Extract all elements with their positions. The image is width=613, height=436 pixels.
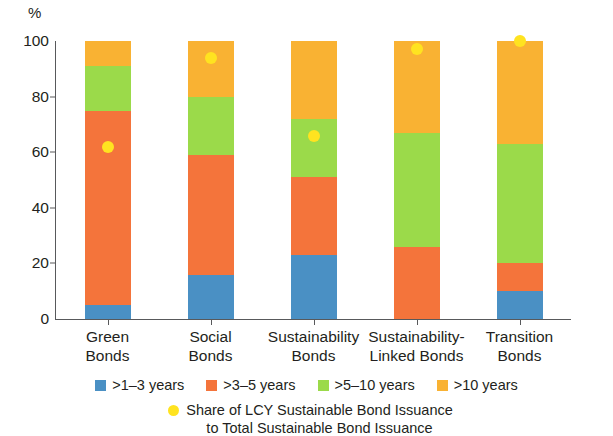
legend-item-label: >5–10 years bbox=[335, 378, 415, 393]
bar-segment[interactable] bbox=[85, 305, 131, 319]
x-axis-tick-mark bbox=[108, 319, 109, 325]
bar-segment[interactable] bbox=[188, 41, 234, 97]
overlay-data-point[interactable] bbox=[514, 35, 526, 47]
legend-item[interactable]: >10 years bbox=[437, 378, 518, 393]
bar-segment[interactable] bbox=[291, 177, 337, 255]
bar-segment[interactable] bbox=[497, 291, 543, 319]
bar-segment[interactable] bbox=[497, 41, 543, 144]
bar-segment[interactable] bbox=[291, 255, 337, 319]
y-axis-tick-label: 0 bbox=[15, 311, 49, 327]
legend-item-label: >3–5 years bbox=[223, 378, 295, 393]
bar-stack[interactable]: Sustainability- Linked Bonds bbox=[394, 41, 440, 319]
y-axis-tick-label: 40 bbox=[15, 200, 49, 216]
bar-segment[interactable] bbox=[291, 41, 337, 119]
bar-stack[interactable]: Transition Bonds bbox=[497, 41, 543, 319]
legend-item[interactable]: >1–3 years bbox=[95, 378, 184, 393]
chart-plot-area: 020406080100Green BondsSocial BondsSusta… bbox=[55, 41, 571, 320]
legend-swatch-icon bbox=[95, 380, 106, 391]
legend-swatch-icon bbox=[437, 380, 448, 391]
y-axis-tick-label: 20 bbox=[15, 256, 49, 272]
bar-segment[interactable] bbox=[85, 66, 131, 110]
overlay-data-point[interactable] bbox=[102, 141, 114, 153]
bar-segment[interactable] bbox=[85, 41, 131, 66]
y-axis-tick-mark bbox=[50, 152, 56, 153]
y-axis-tick-mark bbox=[50, 96, 56, 97]
bar-segment[interactable] bbox=[188, 155, 234, 275]
y-axis-tick-label: 80 bbox=[15, 89, 49, 105]
y-axis-tick-mark bbox=[50, 207, 56, 208]
x-axis-tick-mark bbox=[211, 319, 212, 325]
overlay-data-point[interactable] bbox=[411, 43, 423, 55]
legend-swatch-icon bbox=[318, 380, 329, 391]
bar-segment[interactable] bbox=[188, 275, 234, 319]
bar-segment[interactable] bbox=[394, 247, 440, 319]
x-axis-category-label: Transition Bonds bbox=[456, 328, 584, 366]
overlay-data-point[interactable] bbox=[205, 52, 217, 64]
y-axis-tick-mark bbox=[50, 263, 56, 264]
x-axis-tick-mark bbox=[417, 319, 418, 325]
legend-item[interactable]: >5–10 years bbox=[318, 378, 415, 393]
legend-item[interactable]: >3–5 years bbox=[206, 378, 295, 393]
bar-stack[interactable]: Social Bonds bbox=[188, 41, 234, 319]
x-axis-tick-mark bbox=[520, 319, 521, 325]
y-axis-tick-label: 60 bbox=[15, 144, 49, 160]
bar-segment[interactable] bbox=[497, 144, 543, 264]
bar-stack[interactable]: Green Bonds bbox=[85, 41, 131, 319]
bar-stack[interactable]: Sustainability Bonds bbox=[291, 41, 337, 319]
y-axis-unit-label: % bbox=[28, 4, 42, 21]
legend-item-label: >10 years bbox=[454, 378, 518, 393]
bar-segment[interactable] bbox=[291, 119, 337, 177]
bar-segment[interactable] bbox=[497, 263, 543, 291]
legend-overlay-label: Share of LCY Sustainable Bond Issuance t… bbox=[186, 401, 453, 436]
bar-segment[interactable] bbox=[394, 133, 440, 247]
legend-series-row: >1–3 years>3–5 years>5–10 years>10 years bbox=[0, 378, 613, 393]
legend-item-label: >1–3 years bbox=[112, 378, 184, 393]
x-axis-tick-mark bbox=[314, 319, 315, 325]
overlay-data-point[interactable] bbox=[308, 130, 320, 142]
y-axis-tick-label: 100 bbox=[15, 33, 49, 49]
chart-legend: >1–3 years>3–5 years>5–10 years>10 years… bbox=[0, 378, 613, 436]
bar-segment[interactable] bbox=[188, 97, 234, 155]
legend-overlay-row: Share of LCY Sustainable Bond Issuance t… bbox=[0, 401, 613, 436]
legend-swatch-icon bbox=[206, 380, 217, 391]
legend-overlay-dot-icon bbox=[168, 405, 179, 416]
